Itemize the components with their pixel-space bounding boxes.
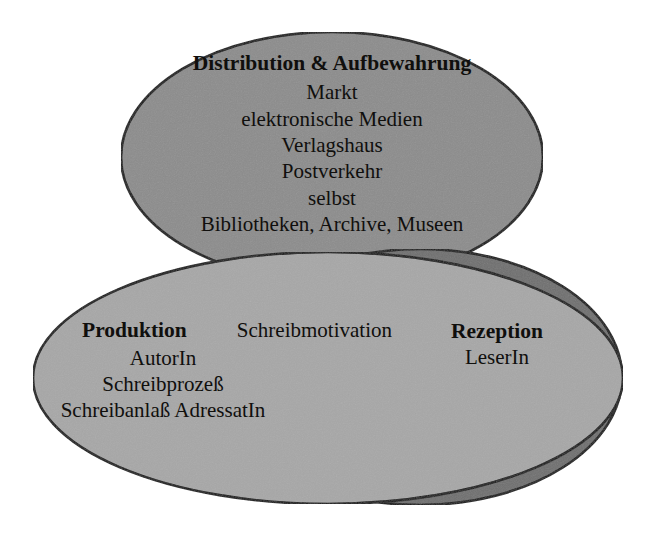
venn-shapes	[0, 0, 660, 537]
venn-diagram-canvas: Distribution & Aufbewahrung Markt elektr…	[0, 0, 660, 537]
ellipse-produktion	[33, 252, 623, 504]
ellipse-distribution	[121, 32, 543, 282]
